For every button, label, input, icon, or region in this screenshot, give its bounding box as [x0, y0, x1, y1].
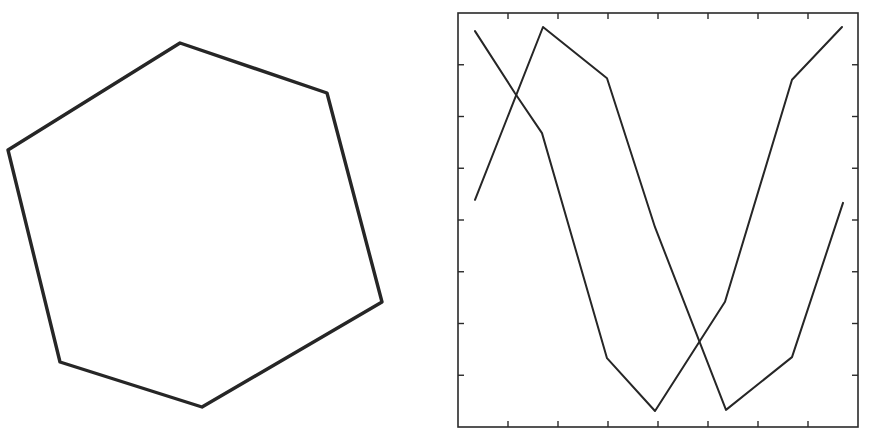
plot-frame: [458, 13, 858, 427]
curve-a-line: [475, 27, 842, 411]
plot-curves: [475, 27, 843, 411]
line-plot-panel: [458, 13, 858, 427]
hexagon-panel: [8, 43, 382, 407]
hexagon-shape: [8, 43, 382, 407]
axis-ticks: [458, 13, 858, 427]
curve-b-line: [475, 27, 843, 410]
figure-canvas: [0, 0, 870, 442]
